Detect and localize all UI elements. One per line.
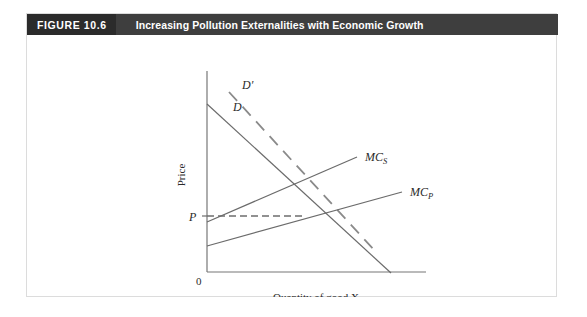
mc-private-curve — [207, 192, 402, 246]
mc-social-label: MC — [364, 150, 384, 164]
mc-private-subscript: P — [427, 191, 433, 201]
mc-social-curve — [207, 157, 357, 222]
mc-private-label: MC — [409, 185, 429, 199]
figure-number-chip: FIGURE 10.6 — [27, 14, 116, 35]
origin-label: 0 — [196, 275, 202, 287]
x-axis-title: Quantity of good X — [273, 291, 359, 297]
demand-curve-d-prime — [229, 92, 376, 252]
mc-social-label-group: MCS — [364, 150, 388, 166]
demand-curve-label: D — [232, 100, 242, 114]
figure-header-bar: FIGURE 10.6 Increasing Pollution Externa… — [27, 14, 558, 35]
figure-title: Increasing Pollution Externalities with … — [136, 19, 424, 31]
figure-container: FIGURE 10.6 Increasing Pollution Externa… — [26, 13, 557, 297]
demand-curve-d — [207, 104, 391, 273]
mc-social-subscript: S — [383, 156, 388, 166]
chart-canvas: D D′ MCS MCP P 0 Price Quantity of good … — [27, 35, 558, 297]
price-axis-tick-label: P — [188, 210, 197, 224]
economics-supply-demand-chart: D D′ MCS MCP P 0 Price Quantity of good … — [27, 35, 558, 297]
demand-shifted-curve-label: D′ — [241, 78, 254, 92]
mc-private-label-group: MCP — [409, 185, 433, 201]
svg-text:MCS: MCS — [364, 150, 388, 166]
svg-text:MCP: MCP — [409, 185, 433, 201]
y-axis-title: Price — [175, 164, 187, 187]
